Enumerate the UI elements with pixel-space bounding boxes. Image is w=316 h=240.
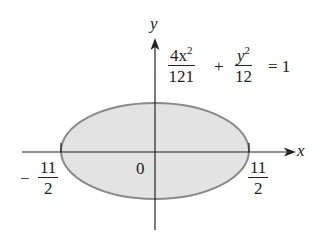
x-axis-label: x bbox=[297, 142, 305, 159]
equation-term1: 4x2 121 bbox=[168, 47, 195, 85]
diagram-canvas bbox=[0, 0, 316, 240]
left-intercept-sign: − bbox=[20, 170, 30, 187]
equation-plus: + bbox=[214, 58, 224, 75]
ellipse-equation: 4x2 121 + y2 12 = 1 bbox=[168, 47, 316, 97]
origin-label: 0 bbox=[136, 160, 145, 177]
equation-equals: = 1 bbox=[268, 58, 290, 75]
left-intercept-label: 11 2 bbox=[38, 159, 58, 197]
right-intercept-label: 11 2 bbox=[248, 159, 268, 197]
y-axis-label: y bbox=[150, 15, 158, 32]
equation-term2: y2 12 bbox=[235, 47, 252, 85]
